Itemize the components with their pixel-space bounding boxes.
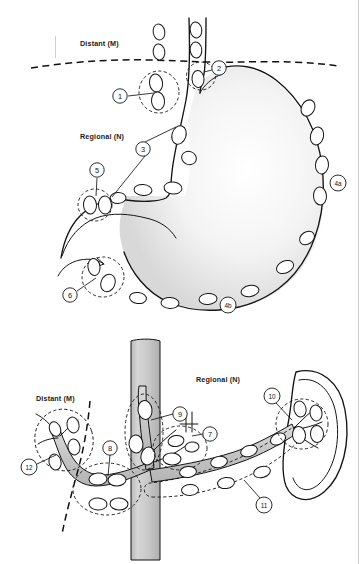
- lymph-node: [189, 41, 202, 58]
- lymph-node: [129, 291, 147, 304]
- marker-4b[interactable]: 4b: [220, 297, 236, 313]
- marker-5[interactable]: 5: [90, 163, 104, 177]
- lymph-node: [191, 70, 204, 88]
- marker-2-label: 2: [217, 64, 221, 73]
- marker-8-label: 8: [108, 444, 112, 453]
- marker-6[interactable]: 6: [63, 288, 77, 302]
- lymph-node: [217, 476, 235, 489]
- lymph-node: [161, 297, 179, 309]
- distant-m-label-upper: Distant (M): [80, 39, 119, 48]
- marker-4a-label: 4a: [334, 180, 342, 187]
- leader-line-8: [108, 455, 110, 476]
- marker-12[interactable]: 12: [21, 459, 37, 475]
- lymph-node: [98, 196, 112, 214]
- marker-1-label: 1: [118, 92, 122, 101]
- leader-line-2: [204, 70, 212, 72]
- stomach-lymph-node-panel: Distant (M) Regional (N) 1 2 3 4a 4b: [31, 18, 346, 313]
- marker-7[interactable]: 7: [203, 427, 217, 441]
- marker-2[interactable]: 2: [212, 61, 226, 75]
- lymph-node: [167, 434, 185, 448]
- lymph-node: [310, 425, 324, 443]
- lymph-node: [169, 124, 188, 146]
- lymph-node: [185, 441, 200, 452]
- marker-8[interactable]: 8: [103, 441, 117, 455]
- lymph-node: [189, 21, 203, 38]
- marker-5-label: 5: [95, 166, 99, 175]
- marker-9[interactable]: 9: [173, 407, 187, 421]
- marker-4b-label: 4b: [224, 302, 232, 309]
- leader-line-5: [96, 178, 97, 196]
- marker-10[interactable]: 10: [264, 388, 280, 404]
- lymph-node: [65, 416, 80, 434]
- anatomical-diagram: Distant (M) Regional (N) 1 2 3 4a 4b: [0, 0, 360, 564]
- lymph-node: [110, 498, 128, 511]
- distant-boundary-upper: [31, 60, 338, 68]
- leader-line-11: [244, 480, 260, 498]
- lymph-node: [110, 192, 126, 204]
- marker-3[interactable]: 3: [136, 142, 150, 156]
- lymph-node: [181, 484, 198, 496]
- marker-12-label: 12: [25, 464, 33, 471]
- lymph-node: [152, 43, 166, 60]
- lymph-node: [292, 400, 308, 418]
- marker-3-label: 3: [141, 145, 145, 154]
- leader-line-7: [192, 434, 203, 436]
- marker-1[interactable]: 1: [113, 89, 127, 103]
- lymph-node: [151, 91, 166, 110]
- marker-11[interactable]: 11: [256, 497, 272, 513]
- distant-m-label-lower: Distant (M): [36, 394, 75, 403]
- lymph-node: [163, 181, 182, 195]
- lymph-node: [108, 474, 126, 487]
- lymph-node: [152, 23, 166, 41]
- marker-9-label: 9: [178, 410, 182, 419]
- marker-11-label: 11: [261, 502, 268, 509]
- marker-6-label: 6: [68, 291, 72, 300]
- lymph-node: [87, 258, 101, 277]
- vascular-splenic-hilum-panel: Distant (M) Regional (N) 7 8 9 10 11: [21, 339, 347, 560]
- lymph-node: [252, 464, 271, 479]
- regional-n-label-upper: Regional (N): [80, 132, 125, 141]
- lymph-node: [89, 497, 108, 510]
- marker-7-label: 7: [208, 430, 212, 439]
- lymph-node: [292, 426, 307, 444]
- lymph-node: [98, 272, 118, 294]
- lymph-node: [163, 453, 181, 466]
- marker-4a[interactable]: 4a: [330, 175, 346, 191]
- leader-line-3a: [145, 127, 176, 142]
- marker-10-label: 10: [268, 393, 276, 400]
- lymph-node: [148, 73, 163, 93]
- regional-n-label-lower: Regional (N): [196, 375, 241, 384]
- leader-line-1: [128, 93, 154, 96]
- lymph-node: [134, 184, 153, 196]
- figure-root: Distant (M) Regional (N) 1 2 3 4a 4b: [0, 0, 360, 564]
